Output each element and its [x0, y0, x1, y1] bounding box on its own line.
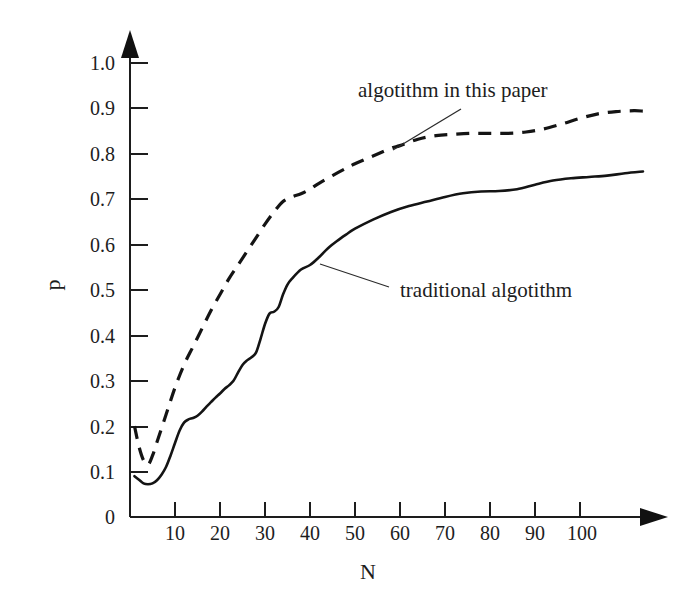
- y-tick-label-0.6: 0.6: [90, 234, 115, 256]
- y-tick-label-0.5: 0.5: [90, 279, 115, 301]
- y-tick-label-0.3: 0.3: [90, 370, 115, 392]
- y-tick-label-0.8: 0.8: [90, 143, 115, 165]
- y-tick-label-0.1: 0.1: [90, 461, 115, 483]
- x-tick-label-70: 70: [435, 522, 455, 544]
- x-tick-label-60: 60: [390, 522, 410, 544]
- x-tick-label-30: 30: [255, 522, 275, 544]
- y-tick-label-0.2: 0.2: [90, 416, 115, 438]
- x-tick-label-10: 10: [165, 522, 185, 544]
- y-tick-label-0.9: 0.9: [90, 97, 115, 119]
- y-tick-label-0: 0: [105, 506, 115, 528]
- chart-background: [0, 0, 690, 607]
- x-tick-label-80: 80: [480, 522, 500, 544]
- y-axis-title: p: [40, 280, 65, 291]
- x-tick-label-100: 100: [567, 522, 597, 544]
- series-label-new-algorithm: algotithm in this paper: [358, 78, 548, 102]
- y-tick-label-1.0: 1.0: [90, 52, 115, 74]
- y-tick-label-0.4: 0.4: [90, 325, 115, 347]
- x-tick-label-20: 20: [210, 522, 230, 544]
- series-label-traditional-algorithm: traditional algotithm: [400, 278, 572, 302]
- x-tick-label-50: 50: [345, 522, 365, 544]
- x-tick-label-40: 40: [300, 522, 320, 544]
- chart-figure: 1.0 0.9 0.8 0.7 0.6 0.5 0.4 0.3 0.2 0.1 …: [0, 0, 690, 607]
- x-tick-label-90: 90: [525, 522, 545, 544]
- y-tick-label-0.7: 0.7: [90, 188, 115, 210]
- x-axis-title: N: [360, 559, 376, 584]
